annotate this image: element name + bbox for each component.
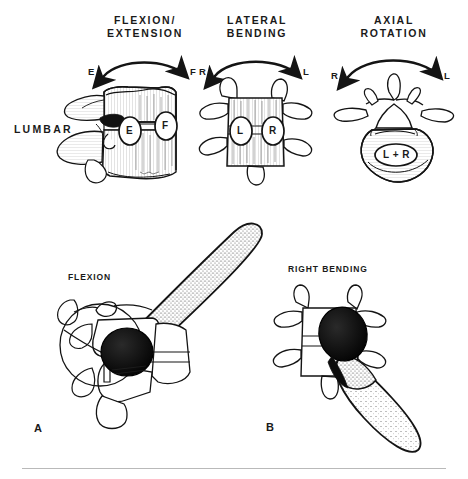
column-heading-line1: AXIAL xyxy=(374,14,414,26)
arrow-label-lateral-bending-left: R xyxy=(199,66,206,78)
arrow-label-flexion-extension-right: F xyxy=(190,66,196,78)
marker-label-L: L xyxy=(237,125,243,137)
column-heading-line2: ROTATION xyxy=(361,27,428,39)
figure-root: FLEXION/EXTENSION LATERALBENDING AXIALRO… xyxy=(0,0,468,479)
marker-label-F: F xyxy=(162,120,168,132)
anatomical-illustration-layer xyxy=(0,0,468,479)
row-heading-lumbar: LUMBAR xyxy=(14,123,73,136)
column-heading-flexion-extension: FLEXION/EXTENSION xyxy=(95,14,195,40)
arrow-label-flexion-extension-left: E xyxy=(88,66,95,78)
panel-b-letter: B xyxy=(266,421,274,434)
arrow-label-lateral-bending-right: L xyxy=(303,66,309,78)
axial-rotation-arrow xyxy=(348,61,440,78)
marker-label-E: E xyxy=(126,125,133,137)
panel-b-right-bending-drawing xyxy=(273,285,420,452)
vertebra-anterior-view xyxy=(199,78,311,185)
panel-a-flexion-drawing xyxy=(58,224,262,429)
column-heading-lateral-bending: LATERALBENDING xyxy=(207,14,307,40)
panel-a-caption: FLEXION xyxy=(68,272,111,282)
arrow-label-axial-rotation-right: L xyxy=(444,70,450,82)
vertebra-superior-view xyxy=(334,74,453,182)
column-heading-line2: EXTENSION xyxy=(107,27,183,39)
panel-a-letter: A xyxy=(34,422,42,435)
vertebra-lateral-view xyxy=(57,87,176,183)
column-heading-line1: FLEXION/ xyxy=(114,14,176,26)
panel-b-caption: RIGHT BENDING xyxy=(288,264,368,274)
flexion-extension-arrow xyxy=(104,63,186,77)
column-heading-axial-rotation: AXIALROTATION xyxy=(344,14,444,40)
lateral-bending-arrow xyxy=(215,62,299,76)
column-heading-line1: LATERAL xyxy=(227,14,287,26)
marker-label-L-plus-R: L + R xyxy=(383,149,410,161)
column-heading-line2: BENDING xyxy=(227,27,287,39)
arrow-label-axial-rotation-left: R xyxy=(331,70,338,82)
footer-divider xyxy=(22,468,446,469)
marker-label-R: R xyxy=(269,125,276,137)
